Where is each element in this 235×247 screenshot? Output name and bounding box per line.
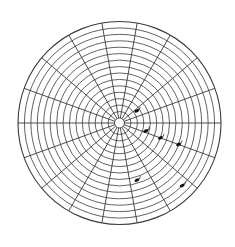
mark-label-tick xyxy=(139,176,140,179)
polar-grid-diagram xyxy=(0,0,235,247)
mark-blob xyxy=(176,142,182,147)
mark-blob xyxy=(134,178,140,183)
mark-blob xyxy=(134,108,140,113)
mark-label-tick xyxy=(181,141,182,144)
marks-layer xyxy=(134,107,186,188)
mark-label-tick xyxy=(163,134,164,137)
mark-blob xyxy=(157,135,163,140)
center-circle xyxy=(115,118,125,128)
mark-label-tick xyxy=(185,182,186,185)
